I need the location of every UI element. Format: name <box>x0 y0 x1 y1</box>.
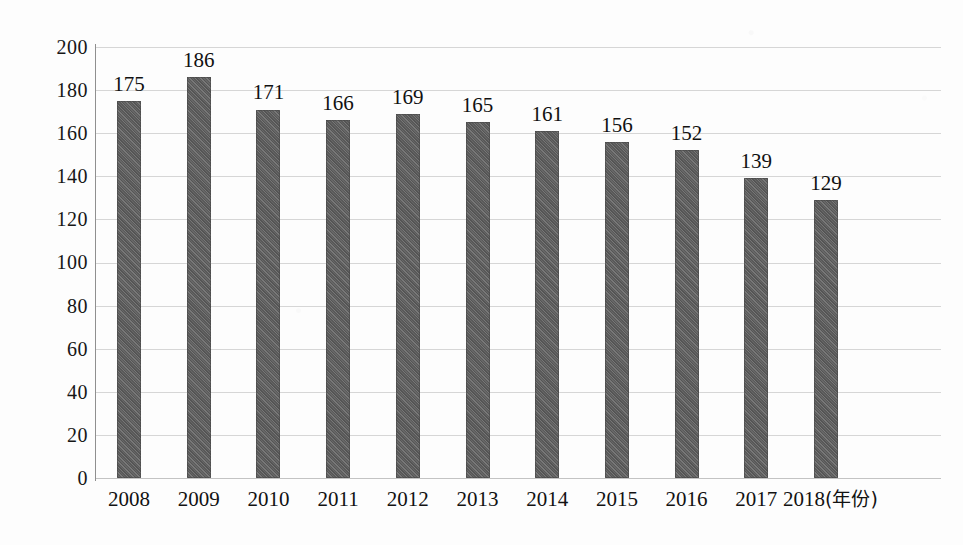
bar-value-label: 165 <box>443 95 513 116</box>
axis-baseline <box>96 478 941 479</box>
y-tick-label: 160 <box>26 123 88 143</box>
y-axis-tick-labels: 200 180 160 140 120 100 80 60 40 20 0 <box>10 0 88 545</box>
bar-value-label: 152 <box>652 123 722 144</box>
y-tick-label: 120 <box>26 209 88 229</box>
bar-value-label: 171 <box>233 82 303 103</box>
bar <box>117 101 141 478</box>
y-tick-label: 80 <box>26 296 88 316</box>
y-tick-label: 60 <box>26 339 88 359</box>
bar <box>675 150 699 478</box>
y-tick-label: 20 <box>26 425 88 445</box>
bar-value-label: 129 <box>791 173 861 194</box>
bar <box>814 200 838 478</box>
bar <box>256 110 280 479</box>
bar-value-label: 166 <box>303 93 373 114</box>
bar-chart: 200 180 160 140 120 100 80 60 40 20 0 17… <box>0 0 963 545</box>
bar-value-label: 139 <box>721 151 791 172</box>
y-tick-label: 40 <box>26 382 88 402</box>
bar <box>326 120 350 478</box>
bar-value-label: 175 <box>94 74 164 95</box>
y-tick-label: 200 <box>26 37 88 57</box>
x-tick-label: 2018(年份) <box>783 487 963 511</box>
x-axis-unit-label: (年份) <box>825 488 878 510</box>
bar-value-label: 161 <box>512 104 582 125</box>
y-tick-label: 140 <box>26 166 88 186</box>
y-tick-label: 100 <box>26 252 88 272</box>
bar <box>396 114 420 478</box>
bar <box>466 122 490 478</box>
gridline <box>96 47 941 48</box>
bar-value-label: 186 <box>164 50 234 71</box>
bar <box>535 131 559 478</box>
bar-value-label: 156 <box>582 115 652 136</box>
gridline <box>96 90 941 91</box>
bar <box>605 142 629 478</box>
y-tick-label: 180 <box>26 80 88 100</box>
bar <box>744 178 768 478</box>
y-tick-label: 0 <box>26 468 88 488</box>
bar-value-label: 169 <box>373 87 443 108</box>
gridline <box>96 133 941 134</box>
bar <box>187 77 211 478</box>
